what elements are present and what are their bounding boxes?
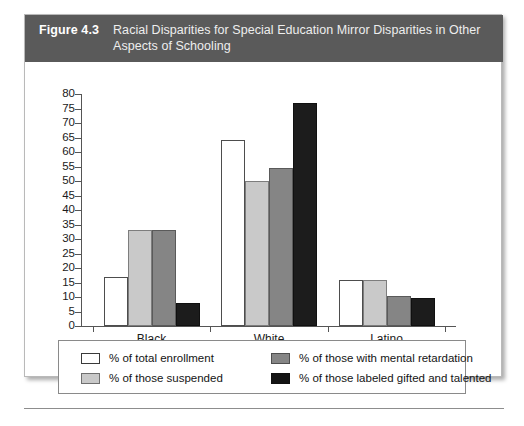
bar-black-series-1 bbox=[128, 230, 152, 326]
y-axis-tick-label: 15 bbox=[49, 277, 75, 288]
chart-plot-area: 05101520253035404550556065707580 BlackWh… bbox=[25, 62, 503, 378]
x-axis-tick bbox=[445, 326, 446, 332]
y-axis-tick bbox=[75, 297, 81, 298]
y-axis-tick-label: 80 bbox=[49, 88, 75, 99]
figure-card: Figure 4.3 Racial Disparities for Specia… bbox=[24, 14, 502, 377]
figure-number: Figure 4.3 bbox=[39, 22, 99, 38]
legend-swatch-light-gray-icon bbox=[81, 373, 100, 384]
legend-label: % of those suspended bbox=[109, 372, 223, 384]
y-axis-tick-label: 70 bbox=[49, 117, 75, 128]
y-axis-tick bbox=[75, 196, 81, 197]
legend-label: % of those with mental retardation bbox=[299, 352, 473, 364]
bar-black-series-0 bbox=[104, 277, 128, 326]
bar-latino-series-0 bbox=[339, 280, 363, 326]
x-axis-tick bbox=[93, 326, 94, 332]
y-axis-tick bbox=[75, 210, 81, 211]
bar-latino-series-3 bbox=[411, 298, 435, 326]
y-axis-tick bbox=[75, 283, 81, 284]
y-axis-tick-label: 0 bbox=[49, 320, 75, 331]
y-axis-tick bbox=[75, 167, 81, 168]
y-axis-tick-label: 5 bbox=[49, 306, 75, 317]
legend-item-total-enrollment: % of total enrollment bbox=[59, 352, 271, 364]
x-axis-tick bbox=[328, 326, 329, 332]
y-axis-tick bbox=[75, 239, 81, 240]
chart-axes: 05101520253035404550556065707580 BlackWh… bbox=[81, 94, 456, 326]
legend-row: % of those suspended % of those labeled … bbox=[59, 368, 465, 388]
legend-swatch-dark-gray-icon bbox=[271, 353, 290, 364]
y-axis-tick bbox=[75, 225, 81, 226]
y-axis-tick bbox=[75, 181, 81, 182]
y-axis-tick-label: 60 bbox=[49, 146, 75, 157]
y-axis-tick-label: 20 bbox=[49, 262, 75, 273]
x-axis-line bbox=[81, 326, 456, 327]
y-axis-tick bbox=[75, 94, 81, 95]
legend-label: % of those labeled gifted and talented bbox=[299, 372, 491, 384]
legend-swatch-black-icon bbox=[271, 373, 290, 384]
y-axis-tick bbox=[75, 109, 81, 110]
y-axis-tick-label: 55 bbox=[49, 161, 75, 172]
legend-item-mental-retardation: % of those with mental retardation bbox=[271, 352, 467, 364]
legend-row: % of total enrollment % of those with me… bbox=[59, 348, 465, 368]
bar-black-series-3 bbox=[176, 303, 200, 326]
legend-item-suspended: % of those suspended bbox=[59, 372, 271, 384]
y-axis-tick-label: 75 bbox=[49, 103, 75, 114]
y-axis-tick bbox=[75, 138, 81, 139]
legend-swatch-white-icon bbox=[81, 353, 100, 364]
figure-title: Racial Disparities for Special Education… bbox=[113, 22, 493, 54]
y-axis-tick-label: 25 bbox=[49, 248, 75, 259]
y-axis-tick-label: 35 bbox=[49, 219, 75, 230]
bar-latino-series-1 bbox=[363, 280, 387, 326]
bar-black-series-2 bbox=[152, 230, 176, 326]
y-axis-tick-label: 45 bbox=[49, 190, 75, 201]
legend-label: % of total enrollment bbox=[109, 352, 214, 364]
legend-item-gifted-talented: % of those labeled gifted and talented bbox=[271, 372, 467, 384]
x-axis-tick bbox=[210, 326, 211, 332]
bar-latino-series-2 bbox=[387, 296, 411, 326]
page-divider-rule bbox=[24, 408, 504, 409]
y-axis-tick bbox=[75, 254, 81, 255]
bar-white-series-2 bbox=[269, 168, 293, 326]
bar-white-series-1 bbox=[245, 181, 269, 326]
y-axis-tick-label: 40 bbox=[49, 204, 75, 215]
y-axis-tick bbox=[75, 152, 81, 153]
y-axis-tick-label: 50 bbox=[49, 175, 75, 186]
y-axis-tick-label: 10 bbox=[49, 291, 75, 302]
y-axis-tick bbox=[75, 326, 81, 327]
y-axis-tick bbox=[75, 268, 81, 269]
y-axis-tick-labels: 05101520253035404550556065707580 bbox=[45, 94, 75, 326]
figure-header: Figure 4.3 Racial Disparities for Specia… bbox=[25, 15, 503, 62]
bar-white-series-0 bbox=[221, 140, 245, 326]
y-axis-tick bbox=[75, 123, 81, 124]
y-axis-tick-label: 30 bbox=[49, 233, 75, 244]
y-axis-tick-label: 65 bbox=[49, 132, 75, 143]
bar-white-series-3 bbox=[293, 103, 317, 326]
y-axis-tick bbox=[75, 312, 81, 313]
bar-series-layer bbox=[82, 94, 456, 326]
chart-legend: % of total enrollment % of those with me… bbox=[58, 340, 466, 394]
